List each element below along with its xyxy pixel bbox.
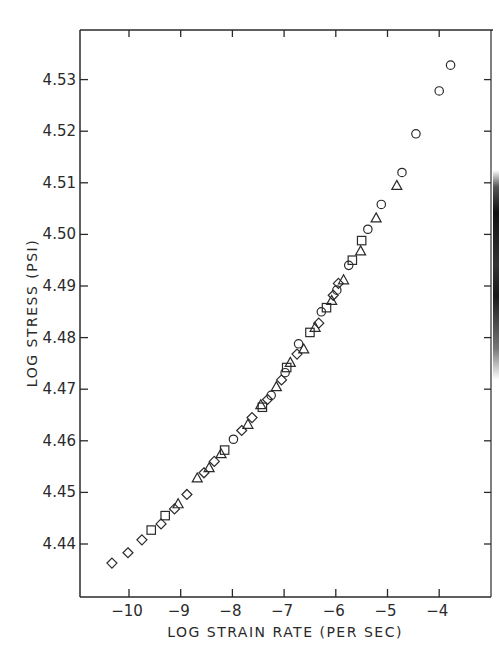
- y-tick-label: 4.47: [43, 380, 76, 398]
- diamond-marker: [199, 468, 209, 478]
- y-tick-label: 4.51: [43, 174, 76, 192]
- square-marker: [147, 526, 155, 534]
- triangle-marker: [310, 322, 320, 331]
- triangle-marker: [392, 180, 402, 189]
- triangle-marker: [371, 213, 381, 222]
- diamond-marker: [137, 535, 147, 545]
- circle-marker: [377, 200, 385, 208]
- y-tick-label: 4.50: [43, 225, 76, 243]
- x-tick-label: −4: [426, 602, 448, 620]
- scatter-chart: −10−9−8−7−6−5−4 4.444.454.464.474.484.49…: [0, 0, 499, 657]
- x-tick-label: −5: [374, 602, 396, 620]
- diamond-marker: [123, 548, 133, 558]
- circle-marker: [281, 368, 289, 376]
- triangle-marker: [356, 246, 366, 255]
- circle-marker: [412, 130, 420, 138]
- circle-marker: [364, 225, 372, 233]
- y-tick-label: 4.45: [43, 483, 76, 501]
- data-points: [107, 61, 455, 568]
- y-axis-title: LOG STRESS (PSI): [24, 239, 40, 387]
- x-tick-label: −7: [271, 602, 293, 620]
- scan-artifact-band: [493, 170, 499, 380]
- x-tick-label: −10: [111, 602, 143, 620]
- square-marker: [161, 511, 169, 519]
- circle-marker: [446, 61, 454, 69]
- x-tick-label: −8: [219, 602, 241, 620]
- x-axis-title: LOG STRAIN RATE (PER SEC): [167, 624, 403, 640]
- x-tick-label: −9: [168, 602, 190, 620]
- y-tick-label: 4.52: [43, 122, 76, 140]
- circle-marker: [294, 340, 302, 348]
- plot-frame: [80, 30, 493, 597]
- y-tick-label: 4.46: [43, 432, 76, 450]
- y-tick-label: 4.49: [43, 277, 76, 295]
- y-tick-label: 4.44: [43, 535, 76, 553]
- square-marker: [357, 236, 365, 244]
- diamond-marker: [107, 558, 117, 568]
- triangle-marker: [243, 419, 253, 428]
- circle-marker: [398, 168, 406, 176]
- y-tick-label: 4.48: [43, 329, 76, 347]
- y-ticks: 4.444.454.464.474.484.494.504.514.524.53: [43, 71, 491, 553]
- square-marker: [306, 328, 314, 336]
- circle-marker: [435, 87, 443, 95]
- circle-marker: [229, 435, 237, 443]
- x-ticks: −10−9−8−7−6−5−4: [111, 30, 448, 620]
- diamond-marker: [237, 425, 247, 435]
- y-tick-label: 4.53: [43, 71, 76, 89]
- diamond-marker: [182, 489, 192, 499]
- x-tick-label: −6: [323, 602, 345, 620]
